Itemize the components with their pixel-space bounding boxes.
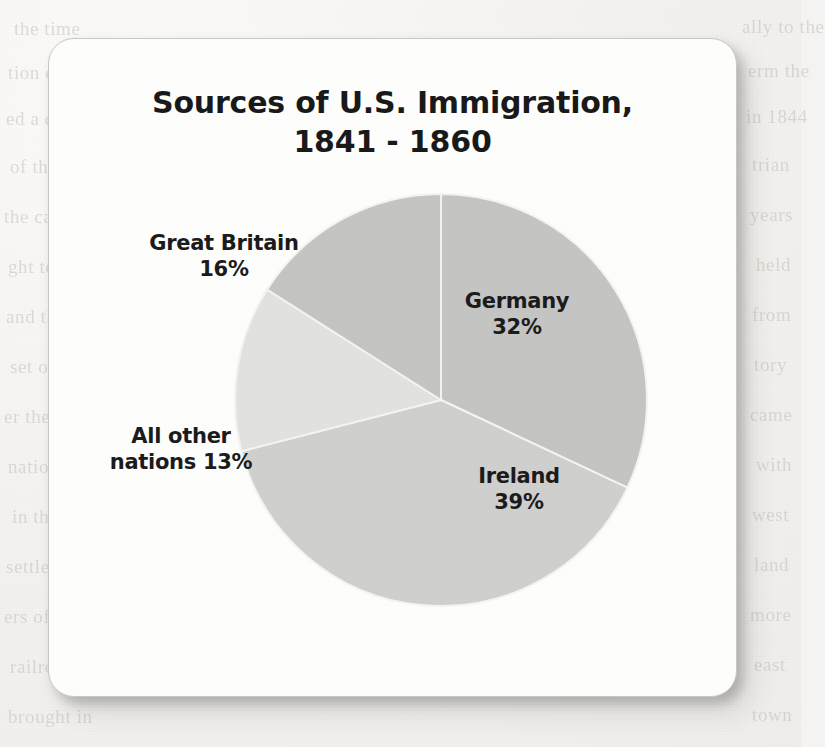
bleed-through-line: erm the xyxy=(748,60,810,82)
pie-chart: Great Britain 16% Germany 32% All other … xyxy=(49,39,736,696)
bleed-through-line: with xyxy=(756,454,792,476)
pie-label-all-other-nations: All other nations 13% xyxy=(83,424,279,475)
bleed-through-line: from xyxy=(752,304,791,326)
bleed-through-line: ally to the xyxy=(742,16,825,38)
pie-label-great-britain: Great Britain 16% xyxy=(129,231,319,282)
bleed-through-line: west xyxy=(752,504,789,526)
bleed-through-line: the time xyxy=(14,18,81,40)
bleed-through-line: held xyxy=(756,254,791,276)
pie-label-germany: Germany 32% xyxy=(427,289,607,340)
pie-label-ireland: Ireland 39% xyxy=(429,464,609,515)
bleed-through-line: in 1844 xyxy=(746,106,808,128)
bleed-through-line: tory xyxy=(754,354,787,376)
bleed-through-line: came xyxy=(750,404,792,426)
bleed-through-line: land xyxy=(754,554,789,576)
bleed-through-line: trian xyxy=(752,154,790,176)
bleed-through-line: east xyxy=(754,654,786,676)
chart-card: Sources of U.S. Immigration, 1841 - 1860… xyxy=(48,38,737,697)
bleed-through-line: brought in xyxy=(8,706,93,728)
bleed-through-line: years xyxy=(750,204,793,226)
bleed-through-line: more xyxy=(750,604,791,626)
pie-chart-svg xyxy=(49,39,736,696)
bleed-through-line: town xyxy=(752,704,792,726)
